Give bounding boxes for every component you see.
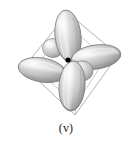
- orbital-diagram: [0, 0, 132, 132]
- figure-caption: (v): [0, 121, 132, 135]
- nucleus-dot: [65, 57, 70, 62]
- orbital-figure: (v): [0, 0, 132, 147]
